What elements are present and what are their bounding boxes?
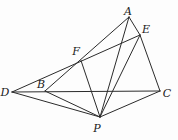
geometry-diagram: AEFDBCP [0, 0, 178, 140]
geometry-figure: AEFDBCP [0, 0, 178, 140]
point-label-E: E [141, 23, 150, 36]
segment-CP [100, 91, 160, 117]
point-label-P: P [92, 122, 101, 135]
point-label-B: B [36, 78, 45, 91]
point-label-A: A [123, 5, 132, 18]
point-label-F: F [71, 45, 80, 58]
segment-DC [12, 91, 160, 92]
segment-AE [129, 17, 140, 35]
point-label-D: D [0, 86, 10, 99]
point-label-C: C [163, 87, 172, 100]
segment-EC [140, 35, 160, 91]
segment-FP [81, 61, 100, 118]
